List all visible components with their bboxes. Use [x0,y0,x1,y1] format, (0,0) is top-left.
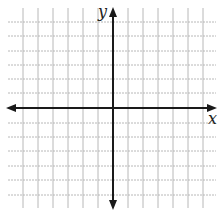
x-axis-label: x [208,109,217,128]
y-axis-bottom-arrow-icon [109,200,117,210]
x-axis-left-arrow-icon [6,104,16,112]
y-axis-label: y [97,2,108,21]
y-axis-top-arrow-icon [109,7,117,17]
coordinate-plane: y x [0,0,221,215]
